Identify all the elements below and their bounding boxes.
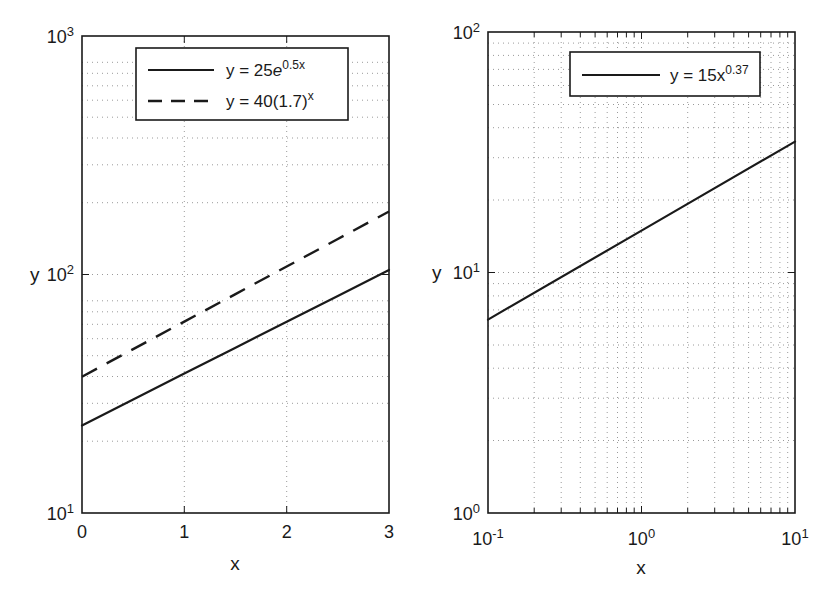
left-plot-svg: y = 25e0.5x y = 40(1.7)x 103 102 101 y bbox=[0, 0, 420, 592]
right-xtick-1: 100 bbox=[628, 526, 655, 549]
left-x-axis-label: x bbox=[230, 553, 240, 574]
right-plot-panel: y = 15x0.37 102 101 100 y 10-1 100 bbox=[420, 0, 824, 592]
left-xtick-1: 1 bbox=[179, 522, 189, 542]
figure-canvas: y = 25e0.5x y = 40(1.7)x 103 102 101 y bbox=[0, 0, 824, 592]
right-plot-gridlines bbox=[488, 32, 795, 513]
left-ytick-100: 102 bbox=[47, 262, 74, 285]
left-y-axis-label: y bbox=[30, 264, 40, 285]
left-xtick-0: 0 bbox=[77, 522, 87, 542]
right-x-axis-label: x bbox=[636, 557, 646, 578]
right-plot-legend[interactable]: y = 15x0.37 bbox=[570, 52, 760, 96]
right-plot-svg: y = 15x0.37 102 101 100 y 10-1 100 bbox=[420, 0, 824, 592]
legend-label-exp-17: y = 40(1.7)x bbox=[226, 89, 314, 111]
right-ytick-100: 102 bbox=[453, 20, 480, 43]
left-plot-legend[interactable]: y = 25e0.5x y = 40(1.7)x bbox=[136, 48, 348, 120]
right-ytick-1: 100 bbox=[453, 501, 480, 524]
right-y-axis-label: y bbox=[432, 262, 442, 283]
left-xtick-2: 2 bbox=[282, 522, 292, 542]
right-ytick-10: 101 bbox=[453, 260, 480, 283]
right-xtick-0.1: 10-1 bbox=[472, 526, 504, 549]
left-xtick-3: 3 bbox=[384, 522, 394, 542]
right-xtick-10: 101 bbox=[781, 526, 808, 549]
left-ytick-1000: 103 bbox=[47, 24, 74, 47]
left-plot-panel: y = 25e0.5x y = 40(1.7)x 103 102 101 y bbox=[0, 0, 420, 592]
left-ytick-10: 101 bbox=[47, 501, 74, 524]
